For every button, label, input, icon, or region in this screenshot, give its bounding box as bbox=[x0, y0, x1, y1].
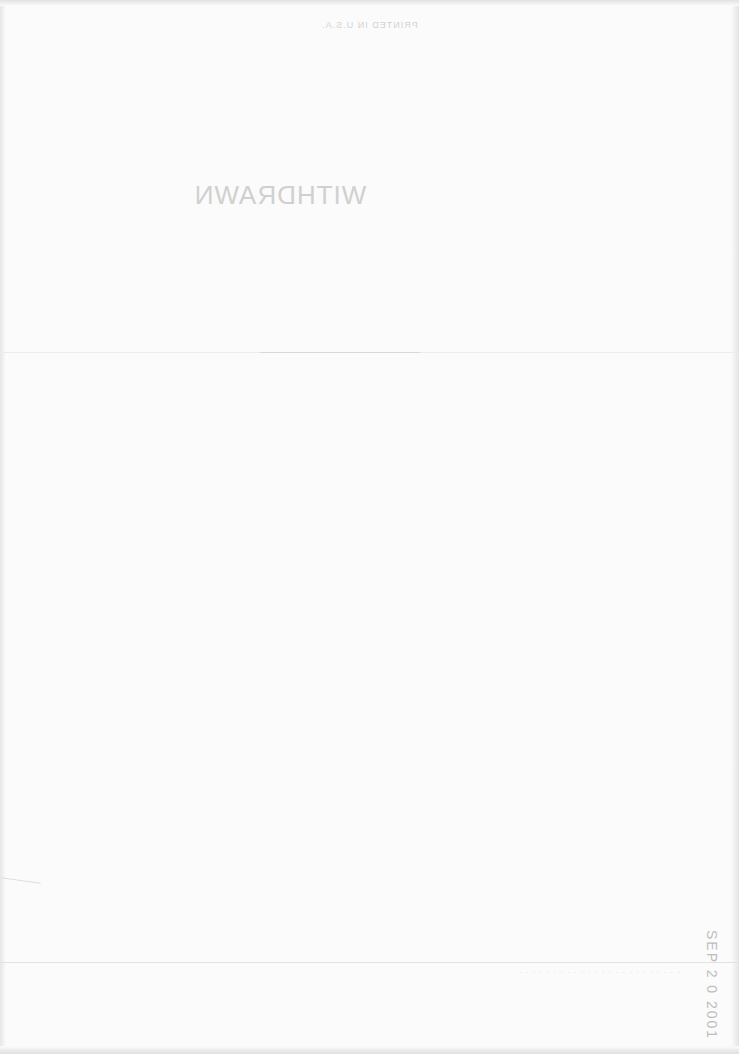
date-stamp: SEP 2 0 2001 bbox=[704, 930, 720, 1040]
footer-showthrough-text: · · · · · · · · · · · · · · · · · · · · … bbox=[80, 968, 680, 977]
header-showthrough-text: PRINTED IN U.S.A. bbox=[0, 20, 739, 30]
page-edge-bottom bbox=[0, 1046, 739, 1054]
scan-smudge bbox=[0, 877, 41, 895]
page-edge-right bbox=[731, 0, 739, 1054]
horizontal-rule-bottom bbox=[0, 962, 739, 963]
horizontal-rule-middle-segment bbox=[260, 352, 420, 353]
withdrawn-stamp: WITHDRAWN bbox=[185, 180, 375, 211]
page-edge-left bbox=[0, 0, 6, 1054]
page-edge-top bbox=[0, 0, 739, 6]
